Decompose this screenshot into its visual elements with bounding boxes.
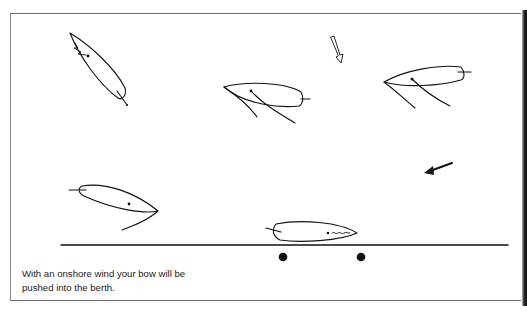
boat-berthed (266, 222, 357, 242)
mast-dot (87, 55, 90, 58)
bollard-right (357, 253, 366, 262)
boat-3 (384, 66, 471, 108)
wind-arrow-solid-icon (424, 163, 452, 175)
mast-dot (327, 232, 330, 235)
caption-line-1: With an onshore wind your bow will be (22, 267, 252, 281)
bollard-left (279, 253, 288, 262)
caption-line-2: pushed into the berth. (22, 281, 252, 295)
figure-caption: With an onshore wind your bow will be pu… (22, 267, 252, 295)
mast-dot (128, 203, 131, 206)
boat-1 (70, 33, 128, 106)
boat-2 (224, 83, 310, 123)
wind-arrow-outline-icon (331, 36, 343, 63)
boat-4 (69, 185, 158, 230)
